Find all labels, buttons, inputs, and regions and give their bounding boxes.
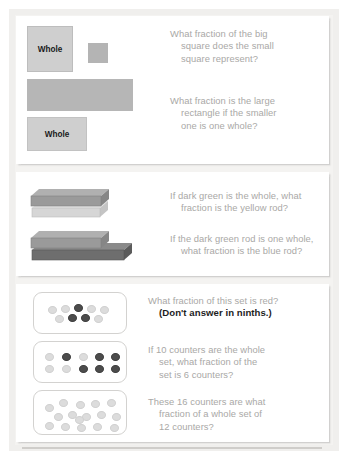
counter-set-1 (33, 292, 127, 334)
counter-red (81, 314, 90, 322)
counter-light (59, 399, 68, 407)
counter-light (48, 306, 57, 314)
counter-light (55, 315, 64, 323)
question-square-2: What fraction is the large rectangle if … (170, 95, 310, 132)
counter-light (79, 353, 88, 361)
question-line: If dark green is the whole, what (170, 190, 301, 201)
question-line: set is 6 counters? (148, 369, 308, 381)
question-line: These 16 counters are what (148, 396, 266, 407)
counter-light (45, 365, 54, 373)
counter-light (61, 305, 70, 313)
counter-red (62, 353, 71, 361)
counter-light (112, 413, 121, 421)
counter-light (97, 411, 106, 419)
counter-light (54, 413, 63, 421)
whole-rectangle-label: Whole (28, 130, 86, 139)
counter-light (94, 315, 103, 323)
question-square-1: What fraction of the big square does the… (170, 28, 310, 65)
question-counter-3: These 16 counters are what fraction of a… (148, 396, 313, 433)
counter-light (91, 400, 100, 408)
question-note-bold: (Don't answer in ninths.) (148, 307, 313, 319)
big-square-shape: Whole (27, 26, 73, 72)
large-rectangle-shape (27, 79, 133, 111)
question-line: What fraction of the big (170, 28, 268, 39)
counter-light (87, 305, 96, 313)
worksheet-page: Whole Whole What fraction of the big squ… (0, 0, 348, 460)
question-counter-2: If 10 counters are the whole set, what f… (148, 344, 308, 381)
small-square-shape (88, 43, 108, 63)
dark-green-rod-icon (31, 189, 109, 206)
counter-red (111, 365, 120, 373)
counter-set-2 (33, 341, 127, 383)
question-line: If the dark green rod is one whole, (170, 233, 314, 244)
counter-light (62, 365, 71, 373)
question-line: fraction is the yellow rod? (170, 202, 320, 214)
question-counter-1: What fraction of this set is red? (Don't… (148, 295, 313, 320)
counter-red (111, 353, 120, 361)
counter-light (93, 423, 102, 431)
rod-pair-green-yellow (28, 186, 138, 226)
question-line: square does the small (170, 40, 310, 52)
counter-light (100, 306, 109, 314)
counter-light (107, 399, 116, 407)
question-line: What fraction of this set is red? (148, 295, 278, 306)
question-line: What fraction is the large (170, 95, 275, 106)
rod-pair-green-blue (28, 228, 143, 270)
counter-light (110, 424, 119, 432)
counter-red (68, 314, 77, 322)
question-line: rectangle if the smaller (170, 107, 310, 119)
question-line: set, what fraction of the (148, 356, 308, 368)
counter-red (95, 353, 104, 361)
whole-rectangle-shape: Whole (27, 117, 87, 151)
counter-light (45, 422, 54, 430)
counter-light (77, 424, 86, 432)
bottom-divider (22, 447, 322, 449)
question-line: fraction of a whole set of (148, 408, 313, 420)
counter-red (74, 304, 83, 312)
counter-light (61, 423, 70, 431)
counter-light (75, 416, 84, 424)
question-line: what fraction is the blue rod? (170, 245, 325, 257)
counter-light (45, 404, 54, 412)
question-rod-2: If the dark green rod is one whole, what… (170, 233, 325, 258)
counter-light (76, 401, 85, 409)
big-square-label: Whole (28, 45, 72, 54)
counter-light (45, 353, 54, 361)
question-rod-1: If dark green is the whole, what fractio… (170, 190, 320, 215)
question-line: square represent? (170, 53, 310, 65)
counter-red (79, 365, 88, 373)
question-line: If 10 counters are the whole (148, 344, 265, 355)
question-line: 12 counters? (148, 421, 313, 433)
dark-green-rod-icon (31, 231, 109, 248)
counter-set-3 (33, 390, 127, 435)
question-line: one is one whole? (170, 120, 310, 132)
counter-red (95, 365, 104, 373)
